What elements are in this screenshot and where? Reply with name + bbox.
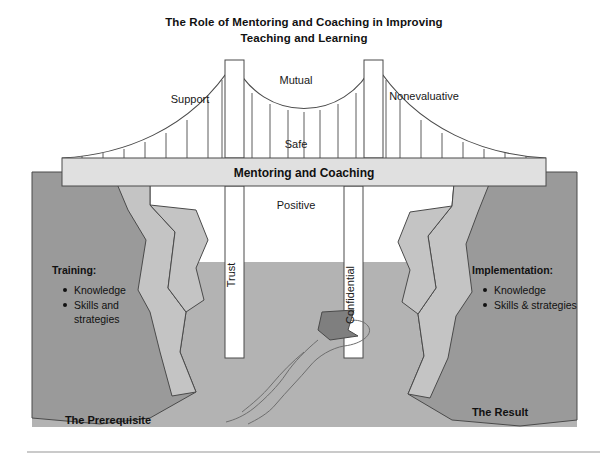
left-cliff-item-1: Knowledge (74, 284, 126, 296)
deck-label: Mentoring and Coaching (234, 166, 375, 180)
bridge-diagram: Mentoring and Coaching Support Mutual Sa… (0, 0, 608, 470)
cable-label-mutual: Mutual (279, 74, 312, 86)
left-bullet-1-icon (63, 288, 67, 292)
cable-label-support: Support (171, 93, 210, 105)
pillar-label-confidential: Confidential (344, 266, 356, 324)
tower-left (225, 60, 244, 158)
pillar-label-trust: Trust (225, 263, 237, 288)
right-cliff-item-1: Knowledge (494, 284, 546, 296)
figure-container: The Role of Mentoring and Coaching in Im… (0, 0, 608, 470)
cable-label-safe: Safe (285, 138, 308, 150)
left-cliff-heading: Training: (52, 264, 96, 276)
right-cliff-caption: The Result (472, 406, 529, 418)
right-bullet-2-icon (483, 303, 487, 307)
left-cliff-item-3: strategies (74, 313, 120, 325)
left-cliff-caption: The Prerequisite (65, 414, 151, 426)
right-cliff-item-2: Skills & strategies (494, 299, 577, 311)
cable-label-nonevaluative: Nonevaluative (389, 90, 459, 102)
left-cliff-item-2: Skills and (74, 299, 119, 311)
hangers-left (82, 80, 222, 158)
water-label-positive: Positive (277, 199, 316, 211)
tower-right (364, 60, 383, 158)
right-bullet-1-icon (483, 288, 487, 292)
left-bullet-2-icon (63, 303, 67, 307)
right-cliff-heading: Implementation: (472, 264, 553, 276)
